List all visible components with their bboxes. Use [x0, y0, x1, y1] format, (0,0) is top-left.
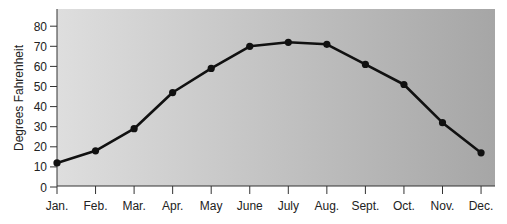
x-tick-label: Aug. — [315, 199, 340, 213]
y-axis: 01020304050607080 — [34, 9, 57, 195]
data-point — [246, 43, 253, 50]
x-tick-label: Feb. — [84, 199, 108, 213]
y-tick-label: 60 — [34, 60, 48, 74]
y-tick-label: 10 — [34, 160, 48, 174]
data-point — [477, 149, 484, 156]
data-point — [208, 65, 215, 72]
x-tick-label: Dec. — [469, 199, 494, 213]
data-point — [439, 119, 446, 126]
x-tick-label: June — [237, 199, 263, 213]
y-tick-label: 20 — [34, 140, 48, 154]
y-tick-label: 0 — [40, 181, 47, 195]
data-point — [92, 147, 99, 154]
y-axis-title: Degrees Fahrenheit — [12, 44, 26, 151]
data-point — [362, 61, 369, 68]
plot-area — [57, 9, 495, 186]
data-point — [323, 41, 330, 48]
y-tick-label: 30 — [34, 120, 48, 134]
x-tick-label: May — [200, 199, 223, 213]
data-point — [285, 39, 292, 46]
x-tick-label: Sept. — [351, 199, 379, 213]
y-tick-label: 50 — [34, 80, 48, 94]
x-tick-label: Nov. — [431, 199, 455, 213]
data-point — [131, 125, 138, 132]
y-tick-label: 40 — [34, 100, 48, 114]
y-tick-label: 80 — [34, 20, 48, 34]
data-point — [169, 89, 176, 96]
x-axis: Jan.Feb.Mar.Apr.MayJuneJulyAug.Sept.Oct.… — [46, 186, 495, 213]
x-tick-label: Jan. — [46, 199, 69, 213]
x-tick-label: July — [278, 199, 299, 213]
x-tick-label: Mar. — [122, 199, 145, 213]
x-tick-label: Apr. — [162, 199, 183, 213]
x-tick-label: Oct. — [393, 199, 415, 213]
data-point — [400, 81, 407, 88]
line-chart: 01020304050607080 Jan.Feb.Mar.Apr.MayJun… — [0, 0, 507, 224]
data-point — [53, 159, 60, 166]
y-tick-label: 70 — [34, 40, 48, 54]
